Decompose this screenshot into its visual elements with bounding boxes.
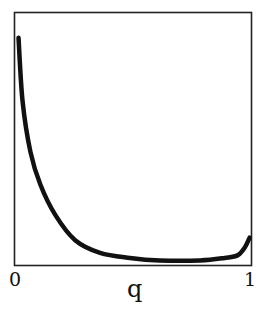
data-curve (19, 38, 250, 261)
x-axis-label: q (127, 275, 142, 303)
x-tick-0: 0 (9, 268, 21, 290)
x-tick-1: 1 (244, 268, 256, 290)
plot-frame (15, 13, 252, 266)
plot-area (0, 0, 263, 310)
